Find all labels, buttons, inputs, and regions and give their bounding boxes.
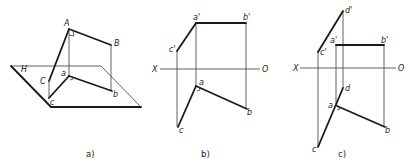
panel-c: XOd'a'b'c'dabcc) — [292, 6, 404, 159]
projection-diagram: HABCabca) XOa'b'c'abcb) XOd'a'b'c'dabcc) — [0, 0, 410, 168]
panel-caption: c) — [338, 149, 346, 159]
segment-line — [178, 86, 196, 127]
panel-caption: a) — [86, 149, 95, 159]
segment-line — [177, 23, 196, 51]
axis-label-x: X — [292, 64, 299, 73]
point-label: b — [113, 90, 118, 99]
point-label: B — [114, 39, 120, 48]
plane-label: H — [21, 65, 27, 74]
point-label: C — [40, 77, 46, 86]
segment-line — [337, 106, 385, 127]
point-label: c' — [169, 45, 176, 54]
point-label: a — [328, 101, 333, 110]
panel-caption: b) — [201, 149, 210, 159]
point-label: c — [50, 98, 55, 107]
plane-edge — [11, 66, 51, 107]
point-label: c — [179, 126, 184, 135]
axis-label-x: X — [151, 65, 158, 74]
point-label: a' — [330, 36, 337, 45]
point-label: c' — [320, 48, 327, 57]
point-label: a — [61, 69, 66, 78]
segment-line — [69, 29, 111, 45]
segment-line — [69, 76, 112, 91]
axis-label-o: O — [398, 64, 404, 73]
segment-line — [318, 88, 343, 147]
point-label: b — [247, 108, 252, 117]
point-label: c — [312, 145, 317, 154]
point-label: d' — [345, 6, 352, 15]
point-label: d — [345, 84, 351, 93]
point-label: a — [199, 78, 204, 87]
panel-a: HABCabca) — [11, 19, 141, 159]
panel-b: XOa'b'c'abcb) — [151, 13, 268, 159]
point-label: b' — [381, 36, 388, 45]
point-label: a' — [193, 13, 200, 22]
segment-line — [49, 29, 69, 81]
segment-line — [49, 76, 69, 98]
right-angle-mark — [69, 31, 74, 36]
point-label: b — [385, 126, 390, 135]
diagram-svg: HABCabca) XOa'b'c'abcb) XOd'a'b'c'dabcc) — [0, 0, 410, 168]
point-label: A — [63, 19, 69, 28]
axis-label-o: O — [262, 65, 268, 74]
point-label: b' — [243, 13, 250, 22]
segment-line — [196, 86, 247, 109]
